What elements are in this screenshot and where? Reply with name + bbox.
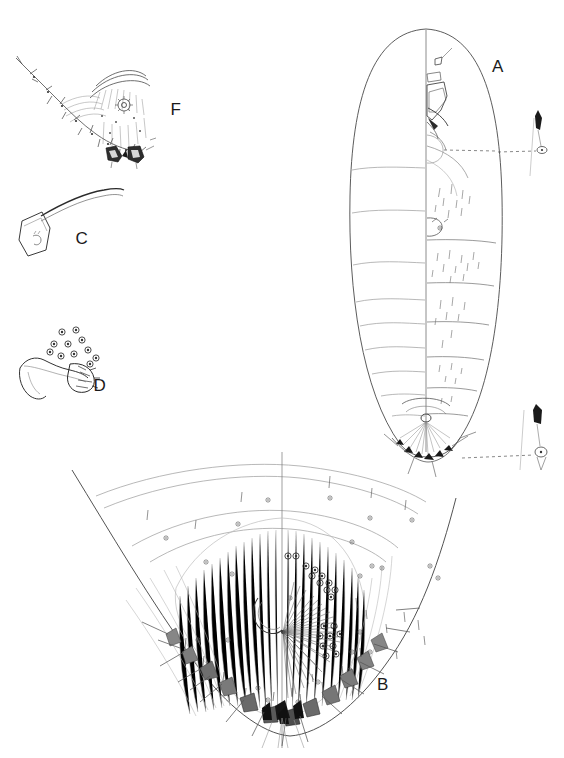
label-a: A (492, 57, 504, 76)
label-c: C (76, 229, 89, 248)
label-f: F (171, 100, 182, 119)
label-b: B (377, 675, 389, 694)
plate-canvas: A B C D F (0, 0, 564, 758)
label-d: D (94, 376, 107, 395)
illustration-plate: A B C D F (0, 0, 564, 758)
